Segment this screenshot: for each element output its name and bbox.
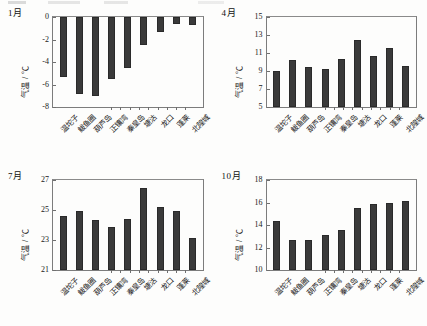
plot-area: 1816141210: [266, 179, 418, 271]
y-axis-tick: -4: [42, 58, 53, 66]
x-label-slot: 温坨子: [268, 274, 284, 324]
bar: [370, 56, 377, 107]
y-axis-tick: 0: [45, 13, 53, 21]
bar: [305, 240, 312, 270]
y-axis-label: 气温 / ℃: [19, 228, 30, 260]
y-axis-tick: -8: [42, 103, 53, 111]
x-label-slot: 温坨子: [268, 111, 284, 161]
bar-slot: [317, 180, 333, 270]
bar: [338, 59, 345, 107]
bar-slot: [382, 180, 398, 270]
x-axis-tick-label: 北隍城: [402, 275, 425, 298]
y-axis-label: 气温 / ℃: [232, 228, 243, 260]
x-label-slot: 蓬莱: [169, 274, 185, 324]
bar: [189, 238, 196, 270]
x-label-slot: 蓬莱: [169, 111, 185, 161]
plot-area: 27252321: [52, 179, 204, 271]
x-axis-ticks: [105, 107, 193, 110]
bar: [305, 67, 312, 108]
chart-panel-4月: 4月气温 / ℃151311975温坨子鲅鱼圈葫芦岛正镶湾秦皇岛塘沽龙口蓬莱北隍…: [214, 0, 427, 163]
x-label-slot: 温坨子: [54, 274, 70, 324]
bar: [354, 208, 361, 270]
x-axis-labels: 温坨子鲅鱼圈葫芦岛正镶湾秦皇岛塘沽龙口蓬莱北隍城: [266, 274, 418, 324]
bar: [173, 211, 180, 270]
x-label-slot: 正镶湾: [317, 111, 333, 161]
bar-slot: [71, 17, 87, 107]
x-axis-tick-label: 北隍城: [189, 112, 212, 135]
bar: [289, 240, 296, 270]
chart-panel-7月: 7月气温 / ℃27252321温坨子鲅鱼圈葫芦岛正镶湾秦皇岛塘沽龙口蓬莱北隍城: [0, 163, 214, 326]
y-axis-tick: 18: [255, 176, 267, 184]
x-label-slot: 塘沽: [349, 274, 365, 324]
x-label-slot: 鲅鱼圈: [284, 111, 300, 161]
y-axis-tick: 13: [255, 31, 267, 39]
bar: [76, 211, 83, 270]
bar: [402, 201, 409, 270]
x-label-slot: 北隍城: [185, 274, 201, 324]
x-label-slot: 正镶湾: [103, 111, 119, 161]
bar: [92, 17, 99, 96]
bar: [289, 60, 296, 107]
y-axis-tick: 27: [41, 176, 53, 184]
panel-month-label: 4月: [222, 6, 237, 19]
bar: [124, 219, 131, 270]
y-axis-label: 气温 / ℃: [19, 65, 30, 97]
bar-slot: [301, 17, 317, 107]
y-axis-label: 气温 / ℃: [232, 65, 243, 97]
x-label-slot: 葫芦岛: [300, 111, 316, 161]
bar-slot: [55, 180, 71, 270]
x-label-slot: 蓬莱: [382, 111, 398, 161]
bar: [338, 230, 345, 271]
bar: [354, 40, 361, 108]
bar: [273, 71, 280, 107]
x-label-slot: 塘沽: [349, 111, 365, 161]
x-label-slot: 秦皇岛: [120, 111, 136, 161]
x-axis-ticks: [319, 107, 407, 110]
bar-series: [53, 180, 203, 270]
bar: [60, 17, 67, 77]
x-label-slot: 葫芦岛: [87, 111, 103, 161]
chart-panel-1月: 1月气温 / ℃0-2-4-6-8温坨子鲅鱼圈葫芦岛正镶湾秦皇岛塘沽龙口蓬莱北隍…: [0, 0, 214, 163]
bar: [189, 17, 196, 25]
bar-slot: [152, 180, 168, 270]
bar-slot: [152, 17, 168, 107]
bar-slot: [398, 180, 414, 270]
bar: [108, 227, 115, 270]
bar-slot: [269, 180, 285, 270]
x-label-slot: 龙口: [366, 111, 382, 161]
bar-series: [267, 180, 417, 270]
bar-slot: [104, 180, 120, 270]
bar-slot: [398, 17, 414, 107]
bar-slot: [136, 180, 152, 270]
y-axis-tick: 16: [255, 199, 267, 207]
bar: [92, 220, 99, 270]
bar-slot: [55, 17, 71, 107]
x-label-slot: 塘沽: [136, 111, 152, 161]
y-axis-tick: 21: [41, 266, 53, 274]
bar-series: [53, 17, 203, 107]
y-axis-tick: -6: [42, 81, 53, 89]
chart-panel-10月: 10月气温 / ℃1816141210温坨子鲅鱼圈葫芦岛正镶湾秦皇岛塘沽龙口蓬莱…: [214, 163, 427, 326]
x-label-slot: 秦皇岛: [120, 274, 136, 324]
x-label-slot: 鲅鱼圈: [284, 274, 300, 324]
bar-slot: [120, 180, 136, 270]
x-label-slot: 龙口: [152, 111, 168, 161]
bar: [370, 204, 377, 270]
x-axis-ticks: [319, 270, 407, 273]
x-label-slot: 鲅鱼圈: [70, 274, 86, 324]
bar-slot: [333, 180, 349, 270]
bar: [386, 203, 393, 270]
bar-slot: [87, 17, 103, 107]
y-axis-tick: 14: [255, 221, 267, 229]
bar-slot: [184, 17, 200, 107]
plot-area: 0-2-4-6-8: [52, 16, 204, 108]
x-label-slot: 秦皇岛: [333, 111, 349, 161]
bar: [60, 216, 67, 270]
panel-month-label: 7月: [8, 169, 23, 182]
x-axis-labels: 温坨子鲅鱼圈葫芦岛正镶湾秦皇岛塘沽龙口蓬莱北隍城: [52, 274, 204, 324]
bar-slot: [317, 17, 333, 107]
bar: [157, 17, 164, 32]
bar-slot: [136, 17, 152, 107]
bar: [157, 207, 164, 270]
bar-slot: [333, 17, 349, 107]
